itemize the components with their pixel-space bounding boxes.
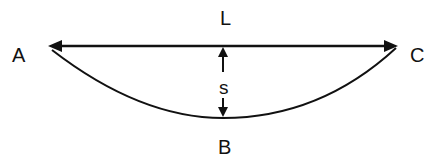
sag-diagram: A L C s B	[0, 0, 438, 163]
arrow-down-icon	[218, 107, 228, 117]
label-a: A	[12, 45, 25, 65]
arrowhead-left-icon	[48, 40, 62, 52]
label-l: L	[220, 8, 231, 28]
label-b: B	[218, 137, 231, 157]
label-c: C	[410, 45, 424, 65]
arrow-up-icon	[218, 47, 228, 57]
label-s: s	[219, 78, 229, 97]
arrowhead-right-icon	[384, 40, 398, 52]
